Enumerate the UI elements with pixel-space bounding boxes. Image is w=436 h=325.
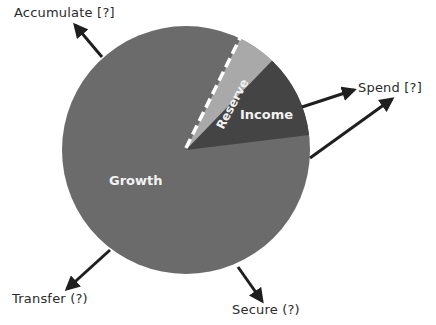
growth-label: Growth (109, 173, 163, 188)
spend-arrow-upper (302, 90, 354, 107)
transfer-label: Transfer (?) (12, 291, 88, 306)
secure-arrow (238, 267, 262, 301)
accumulate-label: Accumulate [?] (14, 5, 115, 20)
accumulate-arrow (75, 25, 102, 57)
spend-arrow-lower (310, 99, 392, 158)
transfer-arrow (67, 250, 110, 289)
pie-diagram: Reserve (0, 0, 436, 325)
secure-label: Secure (?) (232, 302, 300, 317)
income-label: Income (240, 107, 293, 122)
spend-label: Spend [?] (358, 80, 422, 95)
